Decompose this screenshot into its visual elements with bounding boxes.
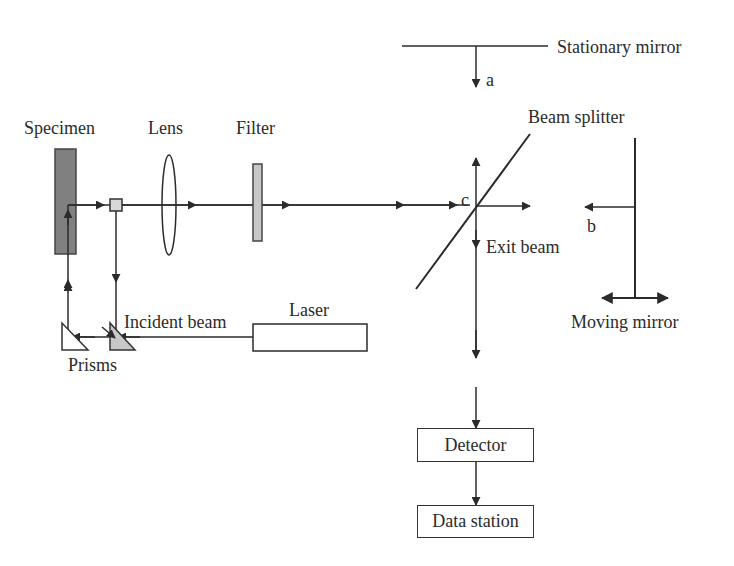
- diagram-graphics: [0, 0, 734, 566]
- specimen-block: [55, 149, 76, 254]
- label-filter: Filter: [236, 119, 275, 137]
- label-moving-mirror: Moving mirror: [571, 313, 679, 331]
- beam-splitter-plate: [416, 134, 530, 289]
- label-point-b: b: [587, 217, 596, 235]
- label-beam-splitter: Beam splitter: [528, 108, 624, 126]
- filter-shape: [253, 164, 262, 241]
- optical-diagram: Specimen Lens Filter Stationary mirror a…: [0, 0, 734, 566]
- label-laser: Laser: [289, 301, 329, 319]
- label-lens: Lens: [148, 119, 183, 137]
- label-prisms: Prisms: [68, 356, 117, 374]
- label-point-a: a: [486, 71, 494, 89]
- label-stationary-mirror: Stationary mirror: [557, 38, 681, 56]
- label-point-c: c: [461, 191, 469, 209]
- label-exit-beam: Exit beam: [486, 238, 559, 256]
- mirror-square: [110, 199, 122, 211]
- data-station-box: Data station: [417, 505, 534, 538]
- label-specimen: Specimen: [24, 119, 95, 137]
- detector-box: Detector: [417, 428, 534, 462]
- laser-box: [253, 324, 367, 351]
- label-incident-beam: Incident beam: [124, 313, 226, 331]
